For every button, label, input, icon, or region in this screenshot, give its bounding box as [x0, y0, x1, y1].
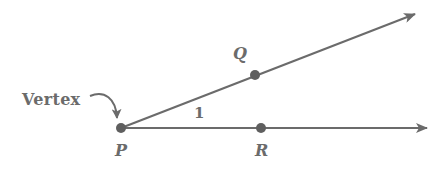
vertex-pointer-arrow: [90, 94, 117, 118]
ray-pq: [121, 14, 415, 128]
vertex-label: Vertex: [22, 92, 80, 108]
point-p: [116, 123, 126, 133]
point-r: [256, 123, 266, 133]
point-q: [250, 70, 260, 80]
point-label-q: Q: [233, 46, 247, 62]
point-label-p: P: [115, 143, 127, 159]
angle-diagram: [0, 0, 444, 172]
point-label-r: R: [255, 143, 268, 159]
angle-label: 1: [194, 106, 204, 121]
